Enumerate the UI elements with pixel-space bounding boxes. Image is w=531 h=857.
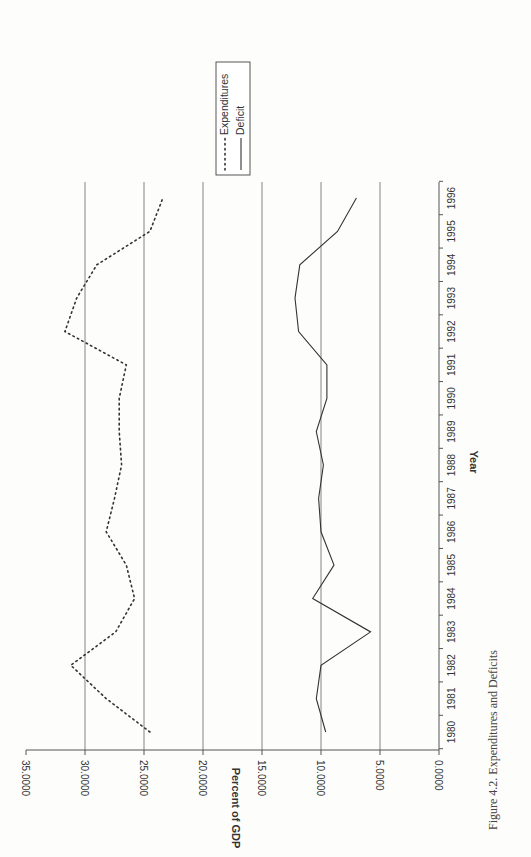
year-tick-label: 1995: [446, 220, 457, 243]
x-axis-label: Year: [468, 450, 480, 474]
chart: 0.00005.000010.000015.000020.000025.0000…: [0, 0, 531, 857]
year-tick-label: 1996: [446, 186, 457, 209]
series-deficit: [295, 198, 371, 732]
year-tick-label: 1986: [446, 520, 457, 543]
year-tick-label: 1983: [446, 620, 457, 643]
gridlines: [85, 182, 380, 750]
year-tick-label: 1987: [446, 487, 457, 510]
year-tick-label: 1988: [446, 453, 457, 476]
y-axis-label: Percent of GDP: [230, 768, 242, 849]
year-tick-label: 1989: [446, 420, 457, 443]
value-tick-label: 10.0000: [315, 760, 326, 797]
value-tick-label: 35.0000: [20, 760, 31, 797]
value-tick-label: 25.0000: [138, 760, 149, 797]
legend-label-expenditures: Expenditures: [218, 74, 230, 135]
year-tick-label: 1992: [446, 320, 457, 343]
series-expenditures: [65, 198, 163, 732]
value-tick-label: 30.0000: [79, 760, 90, 797]
figure-caption: Figure 4.2. Expenditures and Deficits: [486, 650, 500, 830]
legend: ExpendituresDeficit: [216, 62, 250, 175]
value-tick-label: 0.0000: [433, 760, 444, 791]
year-tick-label: 1981: [446, 687, 457, 710]
legend-label-deficit: Deficit: [234, 106, 246, 135]
series-lines: [65, 198, 371, 732]
year-tick-label: 1994: [446, 253, 457, 276]
tick-labels: 0.00005.000010.000015.000020.000025.0000…: [20, 186, 457, 796]
year-tick-label: 1980: [446, 720, 457, 743]
year-tick-label: 1985: [446, 554, 457, 577]
year-tick-label: 1990: [446, 387, 457, 410]
year-tick-label: 1993: [446, 287, 457, 310]
year-tick-label: 1984: [446, 587, 457, 610]
axes: [26, 181, 443, 755]
year-tick-label: 1991: [446, 353, 457, 376]
value-tick-label: 20.0000: [197, 760, 208, 797]
year-tick-label: 1982: [446, 654, 457, 677]
value-tick-label: 15.0000: [256, 760, 267, 797]
value-tick-label: 5.0000: [374, 760, 385, 791]
